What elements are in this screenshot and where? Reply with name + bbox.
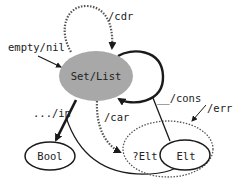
in-label: .../in bbox=[33, 107, 71, 119]
car-edge bbox=[97, 101, 120, 152]
cons-label: __/cons bbox=[157, 92, 201, 105]
car-label: /car bbox=[104, 111, 129, 123]
empty-nil-label: empty/nil bbox=[8, 41, 65, 53]
elt-label: Elt bbox=[177, 150, 196, 162]
state-diagram: Set/List Bool ?Elt Elt /cdr empty/nil ..… bbox=[0, 0, 243, 189]
cons-edge bbox=[153, 98, 170, 141]
err-edge bbox=[192, 105, 206, 121]
cdr-loop-edge bbox=[65, 6, 113, 52]
set-list-label: Set/List bbox=[71, 70, 122, 82]
maybe-elt-label: ?Elt bbox=[132, 150, 157, 162]
empty-nil-edge bbox=[38, 56, 61, 67]
in-to-elt-curve bbox=[66, 117, 176, 174]
bool-label: Bool bbox=[37, 150, 62, 162]
err-label: /err bbox=[207, 102, 232, 114]
cdr-label: /cdr bbox=[108, 10, 133, 22]
